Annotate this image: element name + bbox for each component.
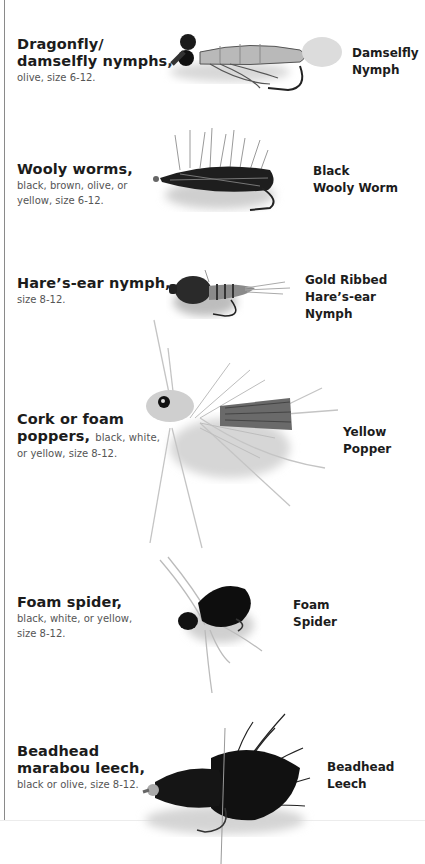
entry-wooly-worms: Wooly worms, black, brown, olive, or yel…	[17, 161, 133, 208]
entry-description: black, white, or yellow, size 8-12.	[17, 611, 132, 641]
foam-spider-image	[150, 555, 270, 695]
entry-cork-foam-poppers: Cork or foam poppers, black, white, or y…	[17, 411, 160, 461]
label-line: Spider	[293, 614, 337, 631]
label-line: Black	[313, 163, 398, 180]
title-line: Cork or foam	[17, 411, 160, 428]
title-text: poppers,	[17, 428, 90, 444]
label-line: Nymph	[352, 62, 419, 79]
label-line: Damselfly	[352, 45, 419, 62]
yellow-popper-image	[140, 318, 340, 548]
description-line: black, brown, olive, or	[17, 178, 133, 193]
entry-description: size 8-12.	[17, 292, 171, 307]
description-line: yellow, size 6-12.	[17, 193, 133, 208]
entry-beadhead-marabou-leech: Beadhead marabou leech, black or olive, …	[17, 743, 145, 792]
label-line: Gold Ribbed	[305, 272, 425, 289]
entry-hares-ear-nymph: Hare’s-ear nymph, size 8-12.	[17, 275, 171, 307]
entry-title: Dragonfly/ damselfly nymphs,	[17, 36, 173, 70]
entry-title: Wooly worms,	[17, 161, 133, 178]
entry-title: Foam spider,	[17, 594, 132, 611]
gold-ribbed-hares-ear-nymph-image	[165, 262, 295, 322]
beadhead-leech-image	[135, 708, 325, 864]
entry-dragonfly-nymphs: Dragonfly/ damselfly nymphs, olive, size…	[17, 36, 173, 85]
black-wooly-worm-image	[150, 120, 290, 220]
entry-description: black, brown, olive, or yellow, size 6-1…	[17, 178, 133, 208]
title-line: Dragonfly/	[17, 36, 173, 53]
title-line: damselfly nymphs,	[17, 53, 173, 70]
fly-label: Foam Spider	[293, 597, 337, 631]
label-line: Wooly Worm	[313, 180, 398, 197]
left-margin-rule	[4, 0, 5, 820]
fly-label: Damselfly Nymph	[352, 45, 419, 79]
title-line: Beadhead	[17, 743, 145, 760]
fly-label: Black Wooly Worm	[313, 163, 398, 197]
title-line: marabou leech,	[17, 760, 145, 777]
label-line: Beadhead	[327, 759, 394, 776]
damselfly-nymph-image	[160, 22, 340, 92]
description-line: black, white, or yellow,	[17, 611, 132, 626]
entry-title: Beadhead marabou leech,	[17, 743, 145, 777]
entry-title: Hare’s-ear nymph,	[17, 275, 171, 292]
entry-foam-spider: Foam spider, black, white, or yellow, si…	[17, 594, 132, 641]
fly-label: Yellow Popper	[343, 424, 425, 458]
description-line: size 8-12.	[17, 626, 132, 641]
entry-description: olive, size 6-12.	[17, 70, 173, 85]
entry-description: or yellow, size 8-12.	[17, 446, 160, 461]
label-line: Leech	[327, 776, 394, 793]
title-line: poppers, black, white,	[17, 428, 160, 446]
fly-label: Beadhead Leech	[327, 759, 394, 793]
label-line: Foam	[293, 597, 337, 614]
entry-title: Cork or foam poppers, black, white,	[17, 411, 160, 446]
entry-description: black or olive, size 8-12.	[17, 777, 145, 792]
fly-label: Gold Ribbed Hare’s-ear Nymph	[305, 272, 425, 323]
